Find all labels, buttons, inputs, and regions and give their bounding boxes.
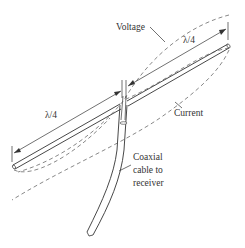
coax-label-line1: Coaxial [133,152,163,163]
lambda-upper-label: λ/4 [183,35,195,46]
lambda-lower-label: λ/4 [45,110,57,121]
lower-quarter-wave-dimension [12,91,121,162]
coax-label-line3: receiver [133,178,164,189]
current-label: Current [174,108,203,119]
lower-dipole-arm [12,104,121,170]
voltage-distribution-curve [14,15,229,172]
coax-label-line2: cable to [133,165,163,176]
voltage-label: Voltage [116,22,145,33]
center-feedpoint-marks [122,80,126,98]
dipole-diagram [0,0,245,248]
voltage-leader-line [150,27,165,42]
